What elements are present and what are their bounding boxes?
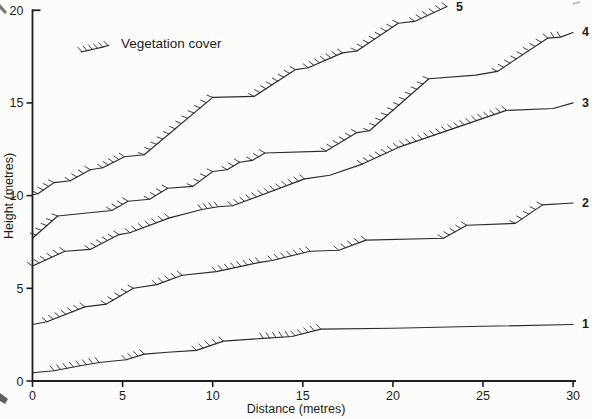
- vegetation-hatch-tick: [281, 253, 285, 258]
- vegetation-hatch-tick: [247, 157, 252, 160]
- vegetation-hatch-tick: [411, 87, 417, 89]
- vegetation-hatch-tick: [285, 331, 288, 336]
- vegetation-hatch-tick: [317, 325, 321, 330]
- vegetation-hatch-tick: [121, 289, 126, 292]
- scan-smudge-bottom-left: [0, 393, 8, 404]
- vegetation-hatch-tick: [361, 236, 366, 240]
- profile-lines: 12345: [28, 0, 590, 373]
- vegetation-hatch-tick: [165, 214, 170, 218]
- vegetation-hatch-tick: [207, 169, 213, 172]
- legend-label: Vegetation cover: [121, 36, 222, 51]
- vegetation-hatch-tick: [448, 125, 453, 129]
- vegetation-hatch-tick: [234, 159, 239, 162]
- profile-line-4: [33, 33, 574, 239]
- vegetation-hatch-tick: [293, 250, 297, 255]
- vegetation-hatch-tick: [91, 243, 96, 246]
- vegetation-hatch-tick: [150, 193, 155, 196]
- profile-3: 3: [28, 96, 590, 266]
- vegetation-hatch-tick: [258, 191, 263, 195]
- vegetation-hatch-tick: [55, 313, 60, 317]
- vegetation-hatch-tick: [212, 339, 217, 343]
- vegetation-hatch-tick: [435, 6, 440, 10]
- vegetation-hatch-tick: [412, 137, 417, 141]
- vegetation-hatch-tick: [484, 112, 489, 116]
- vegetation-hatch-tick: [291, 331, 295, 336]
- vegetation-hatch-tick: [294, 177, 299, 181]
- vegetation-hatch-tick: [42, 318, 47, 322]
- vegetation-hatch-tick: [201, 100, 207, 102]
- vegetation-hatch-tick: [255, 258, 259, 263]
- vegetation-hatch-tick: [57, 365, 61, 370]
- y-tick-label: 20: [10, 4, 24, 18]
- legend-hatch-tick: [78, 47, 82, 51]
- vegetation-hatch-tick: [214, 202, 218, 207]
- vegetation-hatch-tick: [320, 57, 325, 61]
- vegetation-hatch-tick: [132, 226, 137, 230]
- legend-hatch-tick: [94, 44, 98, 48]
- vegetation-hatch-tick: [537, 202, 543, 205]
- vegetation-hatch-tick: [89, 359, 93, 364]
- vegetation-hatch-tick: [203, 204, 207, 209]
- vegetation-hatch-tick: [339, 137, 344, 140]
- vegetation-hatch-tick: [53, 251, 58, 255]
- legend-hatch-tick: [83, 46, 87, 50]
- vegetation-hatch-tick: [234, 200, 239, 204]
- vegetation-hatch-tick: [101, 301, 106, 304]
- scan-smudge-top-left: [0, 4, 7, 14]
- vegetation-hatch-tick: [557, 32, 560, 37]
- x-tick-label: 5: [119, 389, 126, 403]
- vegetation-hatch-tick: [496, 108, 501, 112]
- profile-number-label-2: 2: [582, 196, 589, 210]
- vegetation-hatch-tick: [454, 123, 459, 127]
- vegetation-hatch-tick: [165, 276, 170, 280]
- vegetation-hatch-tick: [80, 303, 85, 307]
- vegetation-hatch-tick: [351, 48, 357, 51]
- vegetation-hatch-tick: [290, 67, 295, 70]
- vegetation-hatch-tick: [381, 28, 387, 31]
- vegetation-hatch-tick: [303, 64, 308, 68]
- vegetation-hatch-tick: [472, 116, 477, 120]
- x-tick-label: 25: [476, 389, 490, 403]
- vegetation-hatch-tick: [332, 52, 337, 56]
- vegetation-hatch-tick: [400, 141, 405, 145]
- vegetation-hatch-tick: [268, 256, 272, 261]
- vegetation-hatch-tick: [128, 354, 132, 358]
- vegetation-hatch-tick: [478, 114, 483, 118]
- legend-hatch-tick: [104, 41, 108, 45]
- vegetation-hatch-tick: [264, 188, 269, 192]
- vegetation-hatch-tick: [266, 82, 271, 85]
- vegetation-hatch-tick: [82, 360, 86, 365]
- profile-number-label-4: 4: [582, 25, 589, 39]
- vegetation-hatch-tick: [134, 352, 138, 356]
- vegetation-hatch-tick: [115, 293, 120, 296]
- vegetation-hatch-tick: [394, 144, 399, 148]
- vegetation-hatch-tick: [306, 247, 310, 252]
- vegetation-hatch-tick: [260, 150, 265, 153]
- vegetation-hatch-tick: [261, 86, 266, 89]
- vegetation-hatch-tick: [198, 205, 202, 210]
- vegetation-hatch-tick: [41, 223, 47, 225]
- profile-number-label-1: 1: [582, 317, 589, 331]
- vegetation-hatch-tick: [205, 342, 210, 346]
- vegetation-hatch-tick: [108, 159, 113, 162]
- vegetation-hatch-tick: [74, 305, 79, 309]
- x-axis-title: Distance (metres): [247, 402, 346, 416]
- vegetation-hatch-tick: [357, 160, 362, 164]
- vegetation-hatch-tick: [310, 326, 314, 331]
- vegetation-hatch-tick: [67, 308, 72, 312]
- vegetation-hatch-tick: [363, 40, 369, 43]
- vegetation-hatch-tick: [502, 106, 507, 110]
- vegetation-hatch-tick: [405, 92, 411, 94]
- vegetation-hatch-tick: [450, 228, 455, 231]
- slope-profile-chart: 05101520253005101520 12345 Vegetation co…: [0, 0, 592, 419]
- x-tick-label: 10: [206, 389, 220, 403]
- vegetation-hatch-tick: [416, 15, 421, 19]
- vegetation-hatch-tick: [243, 260, 247, 265]
- vegetation-hatch-tick: [369, 36, 375, 39]
- profile-line-5: [33, 7, 448, 195]
- vegetation-hatch-tick: [119, 153, 124, 156]
- vegetation-hatch-tick: [98, 164, 103, 167]
- vegetation-hatch-tick: [424, 133, 429, 137]
- legend-hatch-tick: [99, 43, 103, 47]
- vegetation-hatch-tick: [72, 174, 77, 177]
